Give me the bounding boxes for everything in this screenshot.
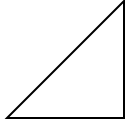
diagram-canvas bbox=[0, 0, 132, 125]
right-triangle bbox=[7, 1, 124, 118]
